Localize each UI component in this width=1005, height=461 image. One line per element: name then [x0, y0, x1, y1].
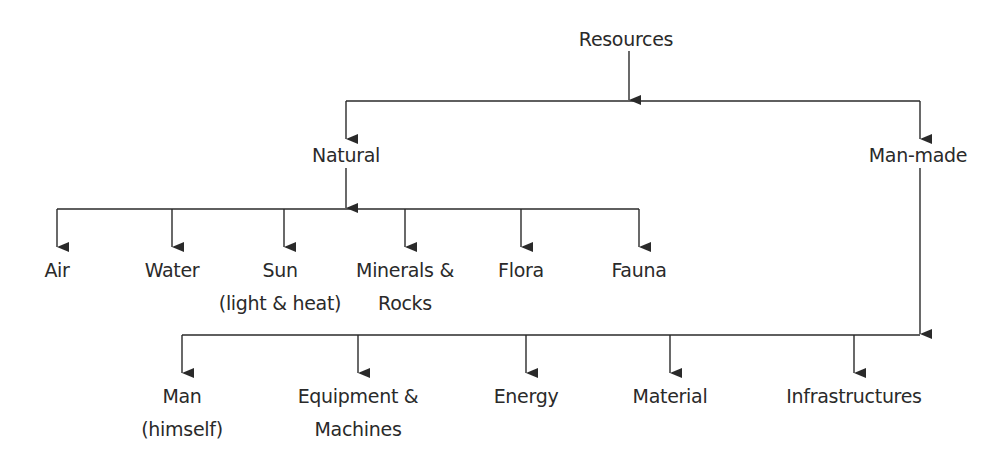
- node-resources: Resources: [579, 23, 673, 56]
- node-energy: Energy: [494, 380, 559, 413]
- node-minerals-label-line1: Minerals &: [356, 254, 454, 287]
- node-natural: Natural: [312, 139, 380, 172]
- node-sun-label-line2: (light & heat): [219, 287, 341, 320]
- node-man-made-label: Man-made: [869, 139, 967, 172]
- resources-hierarchy-diagram: Resources Natural Man-made Air Water Sun…: [0, 0, 1005, 461]
- node-energy-label: Energy: [494, 380, 559, 413]
- node-material-label: Material: [633, 380, 708, 413]
- node-man-label-line2: (himself): [141, 413, 223, 446]
- node-air-label: Air: [44, 254, 69, 287]
- node-resources-label: Resources: [579, 23, 673, 56]
- node-infrastructures-label: Infrastructures: [786, 380, 921, 413]
- node-material: Material: [633, 380, 708, 413]
- node-infrastructures: Infrastructures: [786, 380, 921, 413]
- node-equipment-machines: Equipment & Machines: [298, 380, 419, 446]
- node-fauna-label: Fauna: [611, 254, 666, 287]
- node-air: Air: [44, 254, 69, 287]
- node-flora-label: Flora: [498, 254, 544, 287]
- node-man: Man (himself): [141, 380, 223, 446]
- node-sun-label-line1: Sun: [219, 254, 341, 287]
- node-minerals-rocks: Minerals & Rocks: [356, 254, 454, 320]
- node-sun: Sun (light & heat): [219, 254, 341, 320]
- node-fauna: Fauna: [611, 254, 666, 287]
- node-flora: Flora: [498, 254, 544, 287]
- node-equipment-label-line1: Equipment &: [298, 380, 419, 413]
- node-natural-label: Natural: [312, 139, 380, 172]
- node-water: Water: [145, 254, 200, 287]
- node-minerals-label-line2: Rocks: [356, 287, 454, 320]
- node-water-label: Water: [145, 254, 200, 287]
- node-equipment-label-line2: Machines: [298, 413, 419, 446]
- node-man-made: Man-made: [869, 139, 967, 172]
- node-man-label-line1: Man: [141, 380, 223, 413]
